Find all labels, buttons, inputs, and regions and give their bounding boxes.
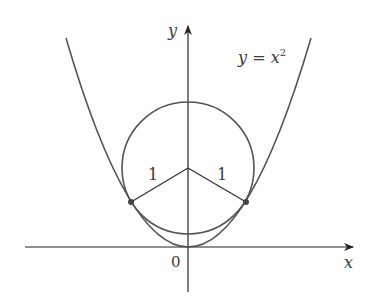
tangent-point-right [243,199,249,205]
radius-left [131,168,188,202]
curve-equation-label: y = x2 [237,47,286,67]
origin-label: 0 [171,253,181,271]
radius-right-label: 1 [217,165,227,184]
diagram-canvas: y x 0 1 1 y = x2 [0,0,377,304]
radius-left-label: 1 [148,165,158,184]
tangent-point-left [128,199,134,205]
x-axis-label: x [344,253,353,272]
y-axis-label: y [167,21,178,40]
